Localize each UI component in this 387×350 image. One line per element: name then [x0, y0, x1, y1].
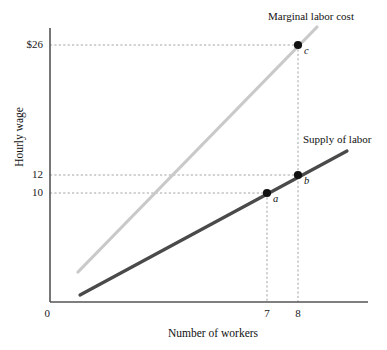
x-tick-label-8: 8	[292, 308, 304, 319]
data-point-a	[263, 189, 271, 197]
point-label-a: a	[273, 194, 278, 205]
marginal-labor-cost-line	[78, 27, 317, 272]
chart-plot-area	[0, 0, 387, 350]
x-tick-label-7: 7	[261, 308, 273, 319]
x-axis-title: Number of workers	[168, 328, 258, 340]
data-point-b	[294, 171, 302, 179]
point-label-b: b	[304, 176, 309, 187]
y-axis-title: Hourly wage	[13, 107, 25, 167]
point-label-c: c	[304, 46, 309, 57]
x-tick-label-0: 0	[38, 308, 50, 319]
series-label-marginal-labor-cost: Marginal labor cost	[268, 11, 354, 22]
series-label-supply-of-labor: Supply of labor	[303, 134, 371, 145]
supply-of-labor-line	[80, 151, 347, 295]
y-axis-title-wrapper: Hourly wage	[9, 97, 27, 177]
y-tick-label-26: $26	[10, 39, 43, 50]
data-point-c	[294, 41, 302, 49]
y-tick-label-10: 10	[10, 187, 43, 198]
economics-labor-market-chart: $26 12 10 0 7 8 Number of workers Hourly…	[0, 0, 387, 350]
